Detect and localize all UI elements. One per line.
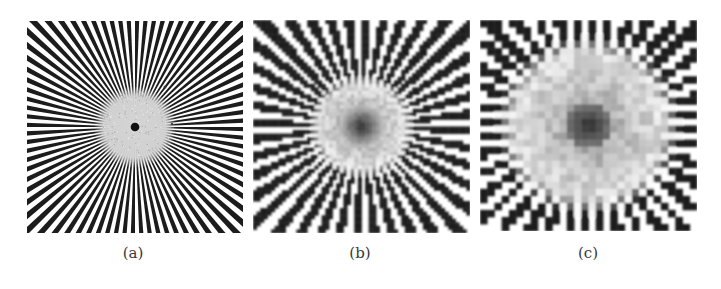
caption-b: (b) xyxy=(320,244,400,262)
caption-c: (c) xyxy=(548,244,628,262)
panel-b-aliased-star xyxy=(253,20,470,233)
caption-a: (a) xyxy=(93,244,173,262)
panel-a-siemens-star xyxy=(27,21,243,233)
panel-c-coarse-aliased-star xyxy=(480,20,697,231)
